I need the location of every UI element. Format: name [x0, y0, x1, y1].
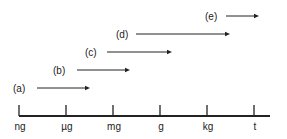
tick-label: g [158, 121, 164, 132]
range-b: (b) [53, 65, 130, 76]
tick-label: µg [61, 121, 72, 132]
range-label: (e) [205, 11, 217, 22]
mass-axis: ngµgmggkgt [14, 105, 270, 132]
arrowhead-icon [167, 50, 172, 54]
range-a: (a) [13, 83, 90, 94]
arrowhead-icon [254, 14, 259, 18]
range-arrows: (a)(b)(c)(d)(e) [13, 11, 259, 94]
range-e: (e) [205, 11, 259, 22]
tick-label: t [254, 121, 257, 132]
arrowhead-icon [125, 68, 130, 72]
range-label: (d) [116, 29, 128, 40]
arrowhead-icon [85, 86, 90, 90]
mass-scale-diagram: (a)(b)(c)(d)(e) ngµgmggkgt [0, 0, 287, 139]
range-label: (c) [85, 47, 97, 58]
range-d: (d) [116, 29, 230, 40]
range-label: (b) [53, 65, 65, 76]
range-label: (a) [13, 83, 25, 94]
range-c: (c) [85, 47, 172, 58]
tick-label: kg [203, 121, 214, 132]
tick-label: ng [14, 121, 25, 132]
tick-label: mg [107, 121, 121, 132]
arrowhead-icon [225, 32, 230, 36]
